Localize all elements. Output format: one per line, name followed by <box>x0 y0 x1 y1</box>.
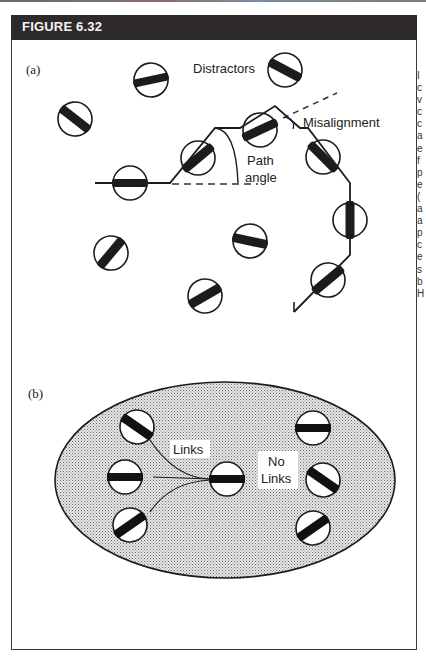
links-label: Links <box>173 442 204 457</box>
path-angle-arc <box>215 128 238 183</box>
path-element <box>164 124 231 191</box>
distractor-element <box>261 47 309 94</box>
path-element <box>303 255 354 305</box>
distractors-label: Distractors <box>193 61 256 76</box>
distractor-element <box>181 272 229 319</box>
panel-b: (b) <box>28 382 395 578</box>
center-element <box>209 462 245 496</box>
linked-element <box>107 460 143 494</box>
misalignment-arc <box>285 117 294 129</box>
path-element <box>298 132 349 183</box>
distractor-element <box>229 221 271 262</box>
misalignment-label: Misalignment <box>303 115 380 130</box>
path-angle-label-line2: angle <box>245 170 277 185</box>
path-element <box>236 107 285 154</box>
path-element <box>112 166 148 200</box>
distractor-element <box>86 228 135 277</box>
panel-b-label: (b) <box>28 386 43 401</box>
panel-a-label: (a) <box>26 62 40 77</box>
no-links-label-line2: Links <box>261 471 292 486</box>
panel-a: (a) <box>26 47 380 320</box>
distractor-element <box>130 60 172 101</box>
path-element <box>333 201 367 239</box>
no-links-label-line1: No <box>268 454 285 469</box>
path-angle-label-line1: Path <box>247 153 274 168</box>
figure-diagram: (a) <box>0 0 426 659</box>
distractor-element <box>50 95 99 144</box>
unlinked-element <box>295 411 331 445</box>
